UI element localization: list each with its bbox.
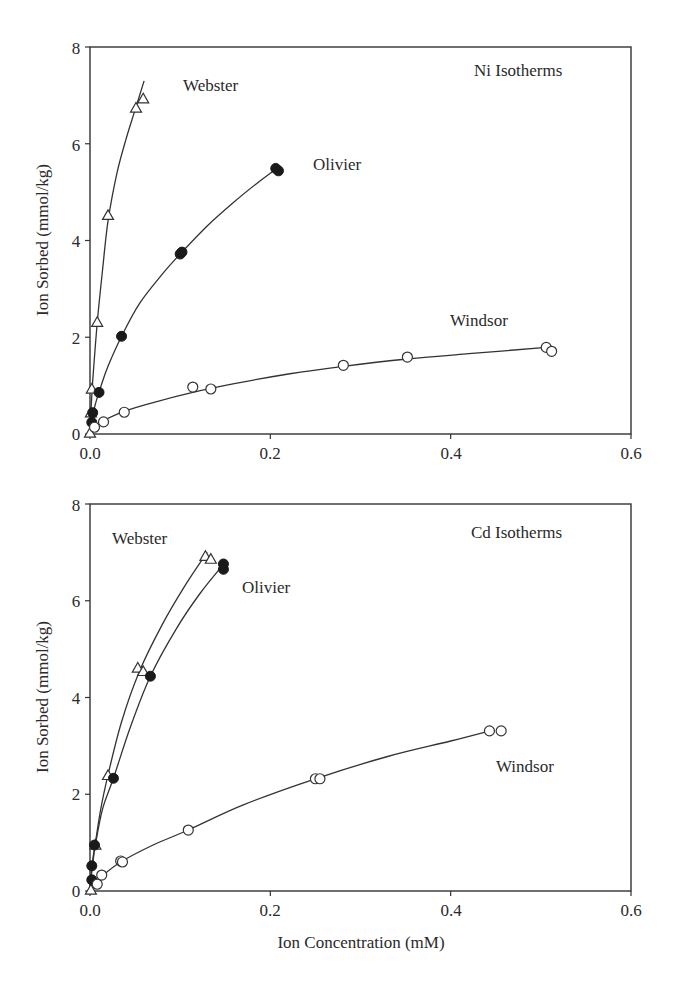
- x-tick-label: 0.4: [440, 444, 462, 463]
- data-point-windsor: [315, 774, 325, 784]
- data-point-olivier: [218, 564, 228, 574]
- data-point-olivier: [88, 408, 98, 418]
- y-tick-label: 8: [72, 39, 81, 58]
- data-point-olivier: [94, 387, 104, 397]
- series-label-webster: Webster: [183, 76, 239, 95]
- data-point-windsor: [338, 360, 348, 370]
- y-tick-label: 6: [72, 592, 81, 611]
- data-point-olivier: [273, 166, 283, 176]
- data-point-windsor: [119, 407, 129, 417]
- panel-title: Cd Isotherms: [471, 523, 562, 542]
- data-point-olivier: [117, 331, 127, 341]
- y-tick-label: 8: [72, 496, 81, 515]
- fit-curve-windsor: [90, 731, 489, 890]
- data-point-windsor: [402, 352, 412, 362]
- x-tick-label: 0.2: [259, 901, 280, 920]
- cd-isotherm-panel: 0.0 0.2 0.4 0.6 0 2 4 6 8 Ion Sorbed (mm…: [33, 496, 642, 952]
- series-label-windsor: Windsor: [496, 757, 554, 776]
- x-tick-label: 0.6: [620, 444, 641, 463]
- fit-curves: [90, 81, 546, 434]
- data-point-windsor: [496, 726, 506, 736]
- data-point-windsor: [90, 422, 100, 432]
- series-label-olivier: Olivier: [313, 155, 361, 174]
- data-point-windsor: [117, 857, 127, 867]
- y-tick-label: 6: [72, 136, 81, 155]
- x-tick-label: 0.6: [620, 901, 641, 920]
- fit-curve-webster: [90, 552, 207, 891]
- ni-isotherm-panel: 0.0 0.2 0.4 0.6 0 2 4 6 8 Ion Sorbed (mm…: [33, 39, 642, 463]
- data-point-windsor: [92, 879, 102, 889]
- data-point-windsor: [547, 346, 557, 356]
- x-tick-label: 0.0: [79, 444, 100, 463]
- panel-title: Ni Isotherms: [474, 61, 562, 80]
- data-point-windsor: [484, 726, 494, 736]
- y-tick-label: 2: [72, 785, 81, 804]
- fit-curves: [90, 552, 489, 891]
- x-tick-label: 0.4: [440, 901, 462, 920]
- data-point-olivier: [87, 861, 97, 871]
- y-tick-label: 0: [72, 425, 81, 444]
- data-point-windsor: [188, 382, 198, 392]
- y-tick-label: 0: [72, 882, 81, 901]
- plot-frame: [90, 504, 631, 891]
- data-point-windsor: [99, 417, 109, 427]
- series-label-webster: Webster: [112, 529, 168, 548]
- fit-curve-webster: [90, 81, 144, 434]
- series-label-olivier: Olivier: [242, 578, 290, 597]
- data-markers: [85, 551, 506, 894]
- data-point-windsor: [206, 384, 216, 394]
- plot-frame: [90, 47, 631, 434]
- y-tick-label: 4: [72, 232, 81, 251]
- data-point-windsor: [183, 825, 193, 835]
- y-tick-label: 4: [72, 689, 81, 708]
- series-label-windsor: Windsor: [450, 311, 508, 330]
- y-axis-title: Ion Sorbed (mmol/kg): [33, 164, 52, 316]
- data-point-webster: [103, 210, 114, 220]
- axis-ticks: [85, 504, 631, 896]
- data-point-olivier: [145, 671, 155, 681]
- data-point-windsor: [97, 870, 107, 880]
- x-tick-label: 0.2: [259, 444, 280, 463]
- isotherm-figure: 0.0 0.2 0.4 0.6 0 2 4 6 8 Ion Sorbed (mm…: [0, 0, 674, 993]
- data-point-olivier: [177, 247, 187, 257]
- data-point-olivier: [108, 773, 118, 783]
- x-axis-title: Ion Concentration (mM): [277, 933, 444, 952]
- data-point-webster: [130, 102, 141, 112]
- data-markers: [85, 93, 557, 437]
- axis-ticks: [85, 47, 631, 439]
- data-point-olivier: [90, 840, 100, 850]
- fit-curve-olivier: [90, 565, 223, 892]
- fit-curve-windsor: [90, 347, 546, 431]
- data-point-webster: [92, 317, 103, 327]
- y-tick-label: 2: [72, 329, 81, 348]
- x-tick-label: 0.0: [79, 901, 100, 920]
- y-axis-title: Ion Sorbed (mmol/kg): [33, 621, 52, 773]
